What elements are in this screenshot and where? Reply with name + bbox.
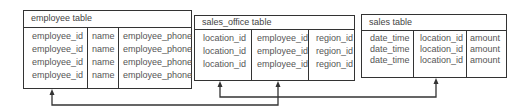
- arrowhead-icon: [276, 81, 281, 87]
- link-employee-id: [52, 86, 278, 105]
- relationship-connectors: [0, 0, 529, 111]
- arrowhead-icon: [218, 81, 223, 87]
- arrowhead-icon: [50, 89, 55, 95]
- arrowhead-icon: [434, 78, 439, 84]
- link-location-id: [220, 83, 436, 97]
